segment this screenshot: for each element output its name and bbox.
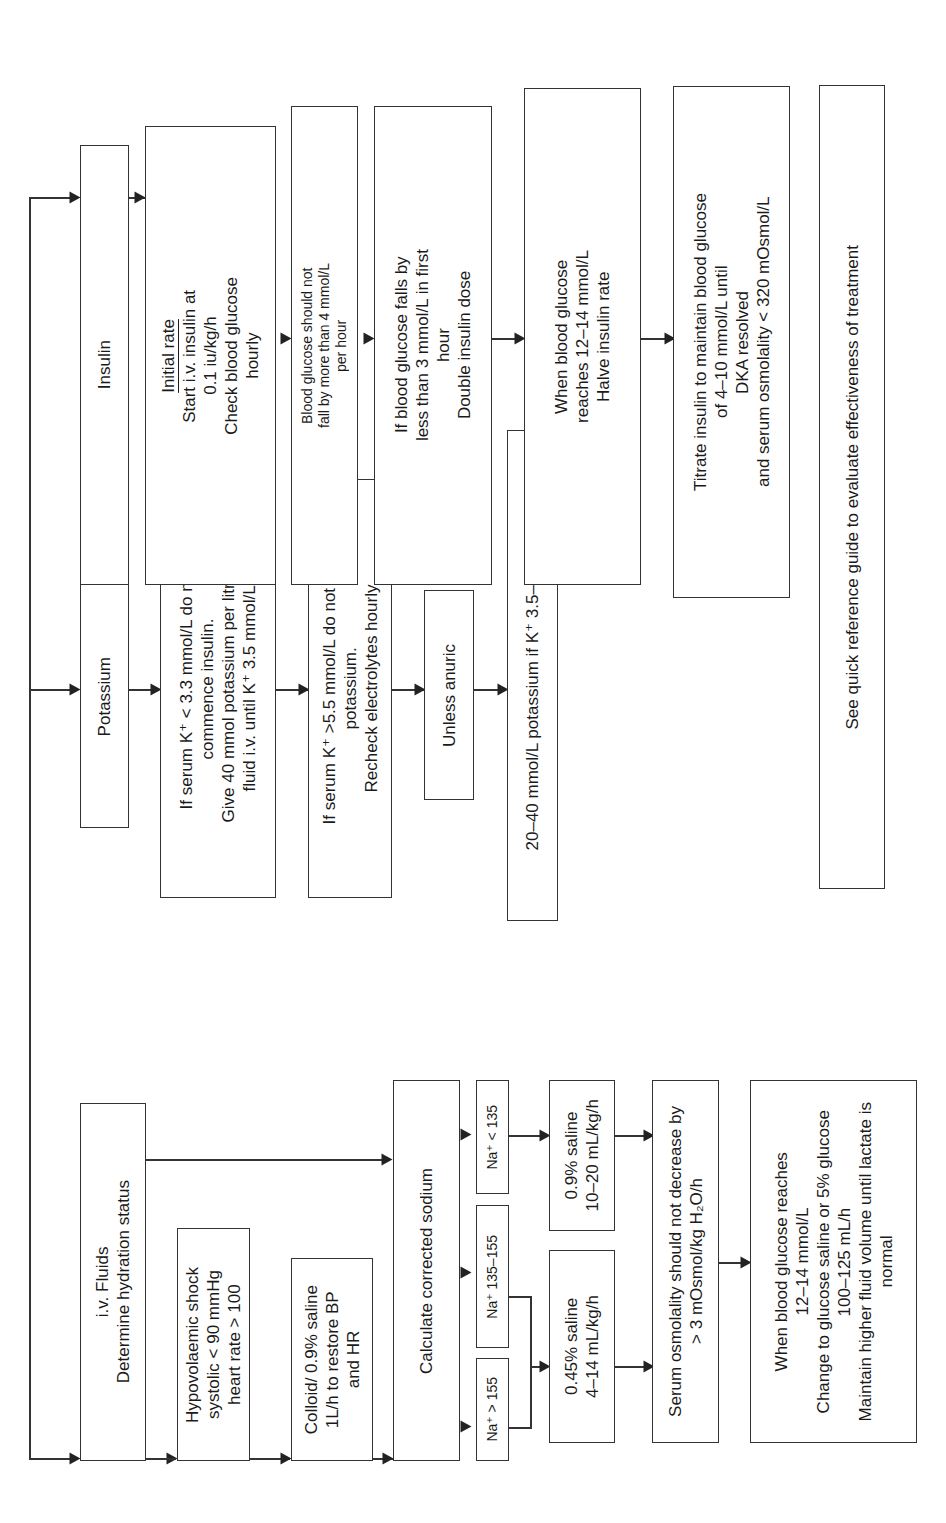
arrow — [364, 333, 375, 345]
arrow — [281, 333, 292, 345]
insulin-header: Insulin — [94, 340, 115, 389]
hypovolaemic-shock-box: Hypovolaemic shock systolic < 90 mmHg he… — [177, 1228, 250, 1461]
colloid-box: Colloid/ 0.9% saline 1L/h to restore BP … — [291, 1258, 373, 1461]
arrow — [70, 192, 81, 204]
halve-rate-box: When blood glucose reaches 12–14 mmol/L … — [524, 88, 641, 585]
arrow — [383, 1453, 394, 1465]
arrow — [281, 1453, 292, 1465]
titrate-box: Titrate insulin to maintain blood glucos… — [673, 86, 790, 598]
glucose-reaches-box: When blood glucose reaches 12–14 mmol/L … — [750, 1080, 917, 1443]
arrow — [135, 192, 146, 204]
arrow — [461, 1267, 472, 1279]
connector — [146, 1458, 176, 1460]
unless-anuric: Unless anuric — [439, 644, 460, 747]
initial-rate-box: Initial rateStart i.v. insulin at 0.1 iu… — [145, 126, 276, 585]
halve-insulin-rate: When blood glucose reaches 12–14 mmol/L … — [551, 250, 614, 423]
fluids-header-box: i.v. Fluids Determine hydration status — [80, 1103, 146, 1461]
connector — [146, 1159, 386, 1161]
saline-045: 0.45% saline 4–14 mL/kg/h — [561, 1295, 603, 1398]
na-high-box: Na⁺ > 155 — [476, 1358, 509, 1461]
connector — [509, 1427, 531, 1429]
initial-rate: Initial rateStart i.v. insulin at 0.1 iu… — [158, 277, 263, 435]
calculate-corrected-sodium: Calculate corrected sodium — [416, 1168, 437, 1374]
glucose-fall-limit: Blood glucose should not fall by more th… — [299, 263, 350, 428]
arrow — [461, 1421, 472, 1433]
arrow — [461, 1129, 472, 1141]
colloid-saline: Colloid/ 0.9% saline 1L/h to restore BP … — [301, 1285, 364, 1434]
na-lt-135: Na⁺ < 135 — [484, 1105, 501, 1170]
serum-osmolality: Serum osmolality should not decrease by … — [665, 1106, 707, 1417]
calc-sodium-box: Calculate corrected sodium — [393, 1080, 460, 1461]
hypovolaemic-shock: Hypovolaemic shock systolic < 90 mmHg he… — [182, 1267, 245, 1423]
potassium-header-box: Potassium — [80, 565, 129, 828]
potassium-header: Potassium — [94, 657, 115, 736]
unless-anuric-box: Unless anuric — [424, 590, 474, 800]
na-mid-box: Na⁺ 135–155 — [476, 1205, 509, 1348]
na-gt-155: Na⁺ > 155 — [484, 1377, 501, 1442]
connector — [509, 1296, 531, 1298]
branch-potassium — [29, 689, 73, 691]
glucose-reaches: When blood glucose reaches 12–14 mmol/L … — [771, 1102, 897, 1421]
saline-09-box: 0.9% saline 10–20 mL/kg/h — [549, 1080, 615, 1231]
saline-045-box: 0.45% saline 4–14 mL/kg/h — [549, 1250, 615, 1443]
footer-box: See quick reference guide to evaluate ef… — [819, 85, 885, 889]
titrate-insulin: Titrate insulin to maintain blood glucos… — [690, 193, 774, 491]
arrow — [70, 1453, 81, 1465]
saline-09: 0.9% saline 10–20 mL/kg/h — [561, 1099, 603, 1211]
na-low-box: Na⁺ < 135 — [476, 1080, 509, 1194]
arrow — [382, 1154, 393, 1166]
double-insulin-dose: If blood glucose falls by less than 3 mm… — [391, 249, 475, 441]
trunk-line — [29, 197, 31, 1459]
initial-rate-title: Initial rate — [159, 319, 178, 393]
na-135-155: Na⁺ 135–155 — [484, 1235, 501, 1319]
initial-rate-body: Start i.v. insulin at 0.1 iu/kg/h Check … — [180, 277, 262, 435]
fall-limit-box: Blood glucose should not fall by more th… — [291, 106, 358, 585]
branch-fluids — [29, 1458, 73, 1460]
osmolality-box: Serum osmolality should not decrease by … — [652, 1080, 719, 1443]
arrow — [70, 684, 81, 696]
branch-insulin — [29, 197, 73, 199]
quick-reference-note: See quick reference guide to evaluate ef… — [842, 245, 863, 729]
double-dose-box: If blood glucose falls by less than 3 mm… — [374, 106, 492, 585]
low-potassium-rule: If serum K⁺ < 3.3 mmol/L do not commence… — [176, 555, 260, 822]
high-potassium-rule: If serum K⁺ >5.5 mmol/L do not give pota… — [319, 552, 382, 824]
insulin-header-box: Insulin — [80, 145, 129, 585]
connector — [530, 1296, 532, 1429]
fluids-header: i.v. Fluids Determine hydration status — [92, 1180, 134, 1383]
